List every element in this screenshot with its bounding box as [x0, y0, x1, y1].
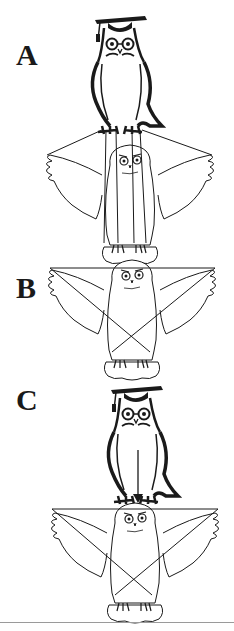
graduate-owl-a — [92, 16, 162, 134]
owl-diagram — [0, 0, 234, 631]
graduate-owl-c — [108, 386, 178, 504]
panel-b — [48, 260, 215, 380]
panel-a — [46, 16, 213, 265]
bottom-divider — [0, 622, 234, 623]
self-strung-owl-c — [51, 503, 218, 623]
panel-c — [51, 386, 218, 623]
puppet-owl-a — [46, 145, 213, 265]
self-strung-owl-b — [48, 260, 215, 380]
